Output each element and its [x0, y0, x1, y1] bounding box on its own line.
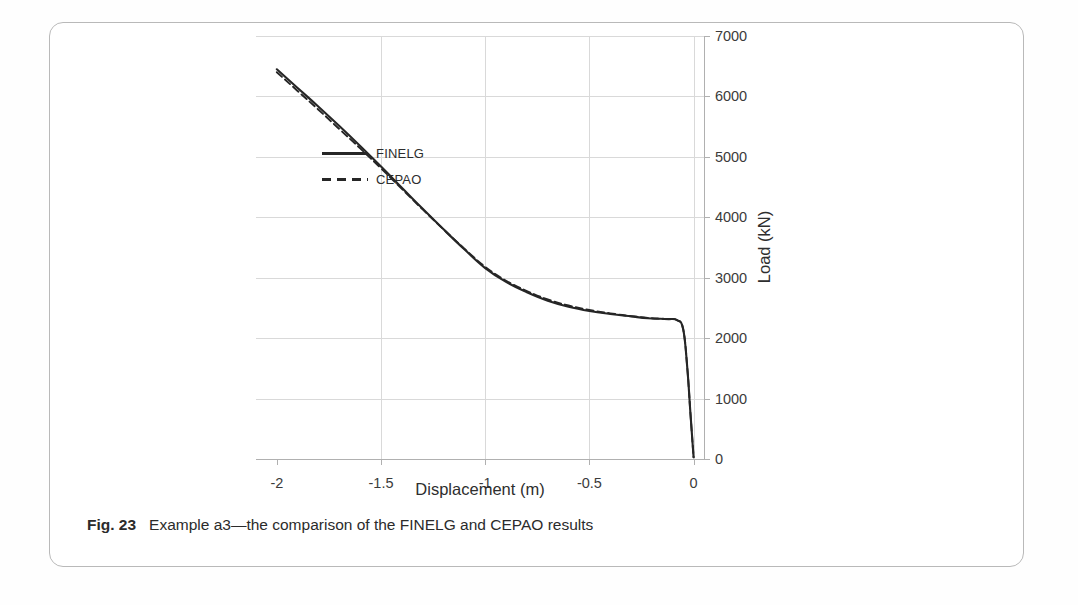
y-tick-label: 2000 [715, 330, 747, 346]
figure-caption-text: Example a3—the comparison of the FINELG … [149, 516, 593, 533]
solid-line-icon [322, 147, 368, 159]
legend-label-finelg: FINELG [376, 146, 424, 161]
x-tick-mark [589, 459, 590, 465]
x-tick-mark [694, 459, 695, 465]
y-tick-mark [704, 157, 710, 158]
x-tick-mark [277, 459, 278, 465]
x-tick-mark [485, 459, 486, 465]
series-line-finelg [277, 69, 694, 457]
legend-item-cepao: CEPAO [322, 166, 472, 192]
y-tick-mark [704, 96, 710, 97]
y-tick-label: 6000 [715, 88, 747, 104]
y-tick-label: 4000 [715, 209, 747, 225]
y-axis-line [704, 36, 705, 459]
y-tick-mark [704, 217, 710, 218]
x-axis-title: Displacement (m) [256, 480, 704, 499]
chart-series-layer [256, 36, 704, 459]
legend-label-cepao: CEPAO [376, 172, 422, 187]
figure-caption: Fig. 23 Example a3—the comparison of the… [87, 515, 987, 535]
figure-caption-label: Fig. 23 [87, 516, 136, 533]
y-tick-mark [704, 459, 710, 460]
legend-item-finelg: FINELG [322, 140, 472, 166]
y-axis-title: Load (kN) [755, 211, 774, 283]
y-tick-mark [704, 338, 710, 339]
y-tick-label: 1000 [715, 391, 747, 407]
y-tick-mark [704, 399, 710, 400]
series-line-cepao [277, 72, 694, 457]
y-tick-mark [704, 278, 710, 279]
y-tick-mark [704, 36, 710, 37]
y-tick-label: 5000 [715, 149, 747, 165]
chart-plot-region: 01000200030004000500060007000 -2-1.5-1-0… [50, 23, 840, 493]
chart-legend: FINELG CEPAO [322, 140, 472, 192]
chart-plot-area: 01000200030004000500060007000 -2-1.5-1-0… [256, 36, 704, 459]
y-tick-label: 0 [715, 451, 723, 467]
figure-card: 01000200030004000500060007000 -2-1.5-1-0… [49, 22, 1024, 567]
x-axis-line [256, 459, 704, 460]
y-tick-label: 7000 [715, 28, 747, 44]
dashed-line-icon [322, 173, 368, 185]
x-tick-mark [381, 459, 382, 465]
y-tick-label: 3000 [715, 270, 747, 286]
